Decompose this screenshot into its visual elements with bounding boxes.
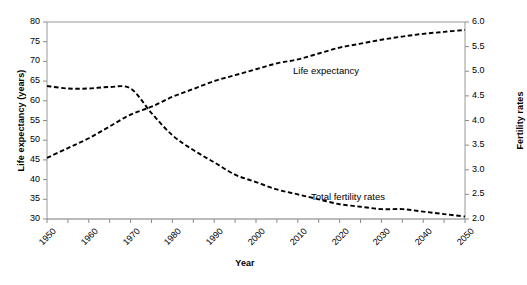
y-axis-right-tick-label: 2.5: [472, 188, 496, 198]
y-axis-left-tick-label: 80: [18, 16, 40, 26]
y-axis-right-tick-label: 4.0: [472, 115, 496, 125]
y-axis-left-tick-label: 30: [18, 213, 40, 223]
y-axis-right-tick-label: 5.0: [472, 65, 496, 75]
y-axis-left-tick-label: 45: [18, 154, 40, 164]
y-axis-right-tick-label: 5.5: [472, 41, 496, 51]
series-line-life-expectancy: [47, 30, 465, 158]
y-axis-left-tick-label: 55: [18, 115, 40, 125]
y-axis-left-tick-label: 50: [18, 134, 40, 144]
y-axis-left-tick-label: 70: [18, 55, 40, 65]
y-axis-right-tick-label: 3.0: [472, 164, 496, 174]
y-axis-right-tick-label: 2.0: [472, 213, 496, 223]
y-axis-left-tick-label: 60: [18, 95, 40, 105]
y-axis-left-tick-label: 35: [18, 193, 40, 203]
y-axis-right-tick-label: 6.0: [472, 16, 496, 26]
series-line-total-fertility-rates: [47, 86, 465, 217]
y-axis-left-tick-label: 75: [18, 36, 40, 46]
y-axis-left-tick-label: 40: [18, 174, 40, 184]
y-axis-right-tick-label: 3.5: [472, 139, 496, 149]
y-axis-right-tick-label: 4.5: [472, 90, 496, 100]
y-axis-left-tick-label: 65: [18, 75, 40, 85]
